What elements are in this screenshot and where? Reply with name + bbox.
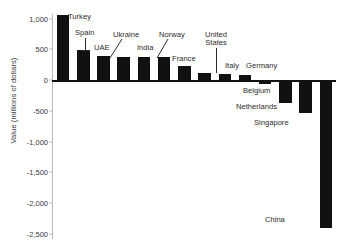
y-tick-label-neg500: -500 xyxy=(33,106,48,115)
y-tick-mark-neg1000 xyxy=(49,141,53,142)
y-axis-title: Value (millions of dollars) xyxy=(9,31,18,171)
bar-label-united-states-line2: States xyxy=(205,38,227,47)
leader-line-united-states xyxy=(216,48,217,73)
bar-label-india: India xyxy=(137,44,153,52)
y-tick-label-neg1000: -1,000 xyxy=(27,137,48,146)
leader-line-ukraine xyxy=(108,39,124,59)
bar-label-netherlands: Netherlands xyxy=(236,103,277,111)
y-tick-label-1000: 1,000 xyxy=(29,14,48,23)
y-tick-mark-500 xyxy=(49,49,53,50)
y-tick-mark-1000 xyxy=(49,18,53,19)
bar-ukraine xyxy=(117,57,130,80)
y-tick-label-0: 0 xyxy=(44,76,48,85)
y-tick-mark-neg2000 xyxy=(49,203,53,204)
y-tick-mark-neg2500 xyxy=(49,234,53,235)
y-tick-mark-neg1500 xyxy=(49,172,53,173)
leader-tick-spain xyxy=(81,50,90,51)
bar-spain xyxy=(77,50,90,80)
y-tick-label-neg2000: -2,000 xyxy=(27,199,48,208)
y-axis-line xyxy=(52,14,53,239)
y-tick-label-neg2500: -2,500 xyxy=(27,230,48,239)
y-tick-mark-neg500 xyxy=(49,110,53,111)
leader-line-spain xyxy=(85,38,86,50)
bar-singapore xyxy=(299,80,312,113)
bar-india xyxy=(138,57,151,80)
bar-china xyxy=(320,80,333,228)
bar-label-spain: Spain xyxy=(75,29,94,37)
zero-baseline xyxy=(52,80,336,82)
bar-label-china: China xyxy=(265,216,285,224)
bar-label-france: France xyxy=(172,55,196,63)
bar-label-italy: Italy xyxy=(225,62,239,70)
bar-label-united-states: United States xyxy=(196,31,236,48)
bar-turkey xyxy=(57,15,70,80)
bar-united-states xyxy=(198,73,211,80)
bar-label-singapore: Singapore xyxy=(254,119,289,127)
leader-line-norway xyxy=(155,39,171,59)
y-tick-label-500: 500 xyxy=(35,45,48,54)
bar-label-germany: Germany xyxy=(246,62,277,70)
y-tick-label-neg1500: -1,500 xyxy=(27,168,48,177)
bar-label-turkey: Turkey xyxy=(68,13,91,21)
bar-chart: Value (millions of dollars) 1,000 500 0 … xyxy=(0,0,339,251)
bar-netherlands xyxy=(279,80,292,103)
bar-norway xyxy=(158,57,171,80)
bar-label-belgium: Belgium xyxy=(243,87,270,95)
bar-uae xyxy=(97,56,110,80)
bar-france xyxy=(178,66,191,80)
